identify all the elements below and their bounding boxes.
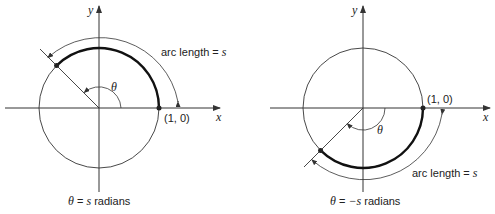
point-1-0 — [157, 106, 162, 111]
right-figure: y x (1, 0) θ arc length = s θ = −s radia… — [270, 3, 490, 208]
caption: θ = s radians — [68, 194, 131, 208]
y-axis-label: y — [87, 3, 94, 17]
left-figure: y x (1, 0) θ arc length = s θ = s radian… — [5, 3, 227, 208]
highlighted-arc — [321, 108, 423, 168]
arc-length-label: arc length = s — [412, 166, 478, 180]
x-axis-label: x — [215, 110, 222, 124]
angle-label: θ — [377, 123, 383, 137]
point-on-circle — [318, 148, 323, 153]
point-1-0 — [421, 106, 426, 111]
unit-circle-diagrams: y x (1, 0) θ arc length = s θ = s radian… — [0, 0, 495, 214]
y-axis-label: y — [351, 3, 358, 17]
point-on-circle — [54, 63, 59, 68]
highlighted-arc — [57, 48, 159, 108]
point-label: (1, 0) — [427, 93, 453, 105]
point-label: (1, 0) — [164, 112, 190, 124]
angle-label: θ — [111, 80, 117, 94]
arc-length-label: arc length = s — [161, 45, 227, 59]
caption: θ = −s radians — [330, 194, 401, 208]
terminal-ray — [304, 108, 363, 167]
x-axis-label: x — [482, 110, 489, 124]
terminal-ray — [40, 49, 99, 108]
